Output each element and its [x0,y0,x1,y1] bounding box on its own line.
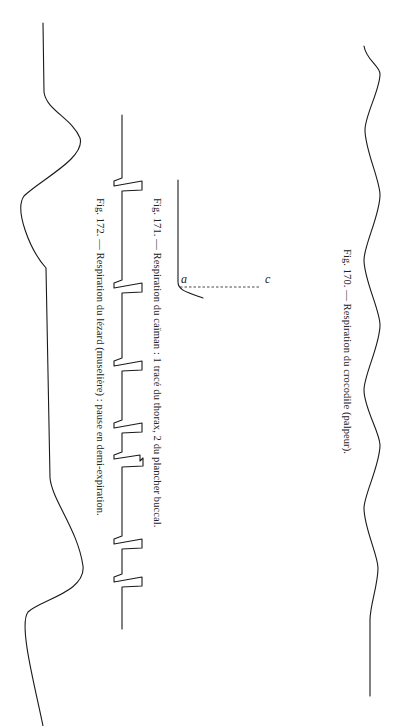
fig-170-caption-text: Fig. 170. — Respiration du crocodile (pa… [342,249,353,454]
fig-172-caption-text: Fig. 172. — Respiration du lézard (musel… [95,198,106,516]
fig-172-caption: Fig. 172. — Respiration du lézard (musel… [95,198,106,516]
left-large-wave-trace [21,23,83,726]
fig-171-label-a: a [181,272,187,286]
fig-170-caption: Fig. 170. — Respiration du crocodile (pa… [342,249,353,454]
scanned-page: a c Fig. 170. — Respiration du crocodile… [0,0,405,726]
fig-171-caption-text: Fig. 171. — Respiration du caïman : 1 tr… [152,198,163,528]
fig-170-trace [364,46,380,696]
fig-171-label-c: c [265,272,271,286]
fig-171-caption: Fig. 171. — Respiration du caïman : 1 tr… [152,198,163,528]
fig-172-trace [114,115,143,629]
